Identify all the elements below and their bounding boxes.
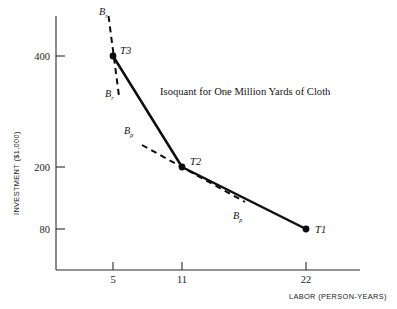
x-tick-label-5: 5: [110, 274, 115, 285]
budget-line-bp-group: Bp Bp: [124, 125, 245, 223]
budget-label-br-top: Br: [99, 6, 108, 19]
x-tick-group: 5 11 22: [110, 262, 311, 285]
budget-label-bp-lower-subscript: p: [238, 216, 242, 223]
isoquant-figure: 400 200 80 5 11 22 INVESTMENT ($1,000) L…: [0, 0, 397, 309]
isoquant-curve-group: [110, 53, 310, 233]
x-tick-label-11: 11: [177, 274, 187, 285]
budget-label-bp-upper: Bp: [124, 125, 133, 138]
x-tick-label-22: 22: [301, 274, 312, 285]
datapoint-t2: [179, 164, 186, 171]
chart-svg: 400 200 80 5 11 22 INVESTMENT ($1,000) L…: [0, 0, 397, 309]
y-tick-group: 400 200 80: [34, 51, 65, 235]
datapoint-t1: [303, 226, 310, 233]
y-tick-label-80: 80: [40, 224, 51, 235]
budget-line-br-group: Br Br: [99, 6, 119, 101]
point-label-t2: T2: [190, 156, 202, 167]
y-tick-label-200: 200: [34, 162, 50, 173]
point-label-t3: T3: [120, 45, 131, 56]
budget-label-bp-upper-subscript: p: [129, 131, 133, 138]
datapoint-t3: [110, 53, 117, 60]
y-tick-label-400: 400: [34, 51, 50, 62]
y-axis-title: INVESTMENT ($1,000): [12, 131, 21, 215]
point-label-t1: T1: [315, 224, 326, 235]
chart-title: Isoquant for One Million Yards of Cloth: [160, 86, 331, 97]
isoquant-curve: [113, 56, 306, 229]
budget-label-bp-lower: Bp: [233, 210, 242, 223]
budget-label-br-bottom: Br: [105, 88, 114, 101]
budget-label-br-bottom-subscript: r: [111, 94, 114, 101]
x-axis-title: LABOR (PERSON-YEARS): [289, 292, 387, 301]
